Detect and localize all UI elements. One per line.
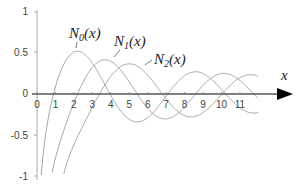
- y-tick-neg0.5: -0.5: [11, 130, 29, 141]
- x-tick-5: 5: [126, 99, 132, 110]
- svg-text:N0(x): N0(x): [68, 25, 101, 43]
- label-n2: N2(x): [145, 51, 186, 69]
- svg-text:N1(x): N1(x): [113, 33, 146, 51]
- x-tick-2: 2: [71, 99, 77, 110]
- x-tick-3: 3: [90, 99, 96, 110]
- curve-n1: [52, 60, 258, 173]
- label-n1: N1(x): [113, 33, 146, 57]
- y-tick-0.5: 0.5: [14, 47, 28, 58]
- x-tick-8: 8: [182, 99, 188, 110]
- x-tick-4: 4: [108, 99, 114, 110]
- curves: [41, 51, 258, 175]
- x-tick-7: 7: [163, 99, 169, 110]
- x-axis-arrow-icon: [277, 88, 293, 100]
- x-tick-11: 11: [235, 99, 246, 110]
- x-tick-10: 10: [216, 99, 228, 110]
- x-tick-1: 1: [53, 99, 59, 110]
- label-n0: N0(x): [68, 25, 101, 48]
- x-tick-6: 6: [145, 99, 151, 110]
- curve-n2: [64, 64, 258, 174]
- svg-text:N2(x): N2(x): [153, 51, 186, 69]
- curve-n0: [41, 51, 258, 175]
- bessel-chart: 1 0.5 0 -0.5 -1 01234567891011 x N0(x) N…: [0, 0, 303, 186]
- y-tick-neg1: -1: [19, 171, 28, 182]
- y-tick-0: 0: [22, 88, 28, 99]
- x-tick-9: 9: [200, 99, 206, 110]
- x-tick-0: 0: [34, 99, 40, 110]
- x-axis-label: x: [280, 67, 288, 83]
- x-ticks: 01234567891011: [34, 92, 245, 110]
- y-tick-1: 1: [22, 6, 28, 17]
